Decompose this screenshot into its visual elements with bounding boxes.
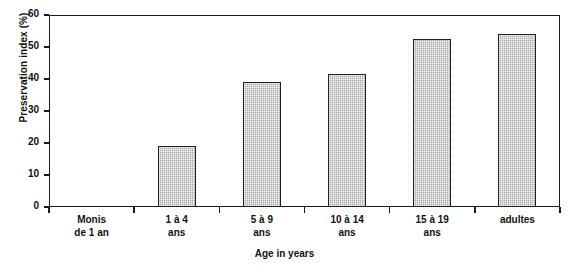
x-category-label-line: ans bbox=[219, 227, 304, 240]
y-tick-mark bbox=[44, 78, 49, 80]
x-category-label-line: 15 à 19 bbox=[390, 214, 475, 227]
x-axis-tick bbox=[304, 207, 306, 213]
bar bbox=[328, 74, 366, 207]
x-axis-tick bbox=[133, 207, 135, 213]
y-tick-label: 10 bbox=[11, 168, 39, 179]
x-category-label-line: adultes bbox=[475, 214, 560, 227]
y-tick-label: 40 bbox=[11, 72, 39, 83]
bar bbox=[243, 82, 281, 207]
y-tick-label: 0 bbox=[11, 200, 39, 211]
x-category-label-line: de 1 an bbox=[49, 227, 134, 240]
plot-area bbox=[49, 15, 560, 207]
y-tick-label: 60 bbox=[11, 8, 39, 19]
x-category-label-line: 10 à 14 bbox=[305, 214, 390, 227]
x-category-label: Monisde 1 an bbox=[49, 214, 134, 239]
x-category-label: 10 à 14ans bbox=[305, 214, 390, 239]
y-tick-label: 50 bbox=[11, 40, 39, 51]
y-tick-label: 20 bbox=[11, 136, 39, 147]
x-category-label-line: 5 à 9 bbox=[219, 214, 304, 227]
x-category-label-line: Monis bbox=[49, 214, 134, 227]
x-category-label-line: 1 à 4 bbox=[134, 214, 219, 227]
y-tick-mark bbox=[44, 110, 49, 112]
y-tick-mark bbox=[44, 14, 49, 16]
x-axis-title: Age in years bbox=[0, 248, 569, 259]
x-category-label: adultes bbox=[475, 214, 560, 227]
x-axis-tick bbox=[559, 207, 561, 213]
bar bbox=[158, 146, 196, 207]
x-axis-tick bbox=[389, 207, 391, 213]
x-category-label: 1 à 4ans bbox=[134, 214, 219, 239]
x-axis-tick bbox=[474, 207, 476, 213]
bar-chart-figure: Preservation index (%) 0102030405060 Mon… bbox=[0, 0, 569, 269]
x-axis-tick bbox=[48, 207, 50, 213]
y-tick-mark bbox=[44, 142, 49, 144]
y-tick-mark bbox=[44, 46, 49, 48]
x-category-label-line: ans bbox=[390, 227, 475, 240]
x-category-label: 5 à 9ans bbox=[219, 214, 304, 239]
bar bbox=[413, 39, 451, 207]
x-category-label: 15 à 19ans bbox=[390, 214, 475, 239]
x-category-label-line: ans bbox=[305, 227, 390, 240]
y-tick-mark bbox=[44, 174, 49, 176]
bar bbox=[498, 34, 536, 207]
x-axis-tick bbox=[219, 207, 221, 213]
y-tick-label: 30 bbox=[11, 104, 39, 115]
x-category-label-line: ans bbox=[134, 227, 219, 240]
